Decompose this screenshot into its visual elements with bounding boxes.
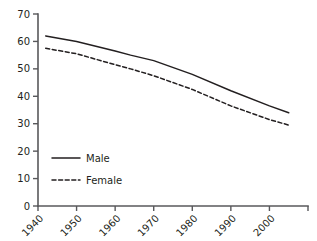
year-axis-tick-label: 1960 xyxy=(97,213,123,239)
value-axis-tick-label: 20 xyxy=(17,146,30,157)
legend-label-female: Female xyxy=(86,175,122,186)
series-line-male xyxy=(46,36,289,113)
value-axis-tick-label: 30 xyxy=(17,118,30,129)
year-axis-tick-label: 1950 xyxy=(58,213,84,239)
year-axis-tick-label: 1980 xyxy=(174,213,200,239)
year-axis: 1940195019601970198019902000 xyxy=(20,206,308,238)
value-axis: 010203040506070 xyxy=(17,9,38,212)
value-axis-tick-label: 60 xyxy=(17,36,30,47)
value-axis-tick-label: 50 xyxy=(17,63,30,74)
value-axis-tick-label: 10 xyxy=(17,173,30,184)
series-lines xyxy=(46,36,289,125)
series-line-female xyxy=(46,48,289,125)
chart-legend: MaleFemale xyxy=(52,153,122,186)
year-axis-tick-label: 1970 xyxy=(135,213,161,239)
year-axis-tick-label: 2000 xyxy=(251,213,277,239)
line-chart: 010203040506070 194019501960197019801990… xyxy=(0,0,317,241)
legend-label-male: Male xyxy=(86,153,110,164)
value-axis-tick-label: 70 xyxy=(17,9,30,20)
value-axis-tick-label: 40 xyxy=(17,91,30,102)
chart-canvas: 010203040506070 194019501960197019801990… xyxy=(0,0,317,241)
year-axis-tick-label: 1990 xyxy=(212,213,238,239)
year-axis-tick-label: 1940 xyxy=(20,213,46,239)
value-axis-tick-label: 0 xyxy=(24,201,30,212)
